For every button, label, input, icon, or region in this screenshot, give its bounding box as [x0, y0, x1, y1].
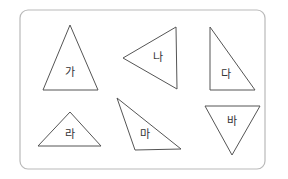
- triangles-diagram: 가 나 다 라 마 바: [0, 0, 288, 179]
- triangle-da-label: 다: [221, 68, 231, 81]
- triangle-na-label: 나: [153, 51, 163, 64]
- triangle-ma-label: 마: [140, 128, 150, 141]
- triangle-ga-label: 가: [65, 66, 75, 79]
- triangle-ra-label: 라: [65, 128, 75, 141]
- triangle-ba-label: 바: [227, 115, 237, 128]
